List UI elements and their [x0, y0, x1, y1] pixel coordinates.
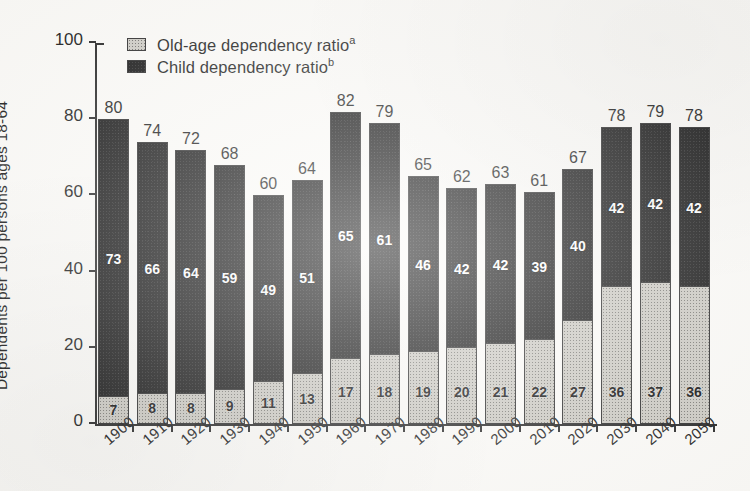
- old-age-segment-value-2050: 36: [686, 385, 702, 399]
- old-age-segment-value-1910: 8: [148, 401, 156, 415]
- bar-2010: 3922: [524, 192, 555, 424]
- legend-item-old-age: Old-age dependency ratioa: [127, 33, 356, 55]
- old-age-segment-2000: 21: [486, 343, 515, 423]
- legend-item-old-age-label: Old-age dependency ratioa: [157, 34, 356, 55]
- y-axis-top-cap: [95, 43, 104, 45]
- y-axis-tick: 60: [89, 193, 96, 195]
- bar-2050: 4236: [679, 127, 710, 424]
- child-segment-value-1900: 73: [106, 252, 122, 266]
- bar-total-label-1940: 60: [245, 176, 291, 192]
- bar-1900: 737: [98, 119, 129, 424]
- child-segment-value-2000: 42: [493, 258, 509, 272]
- child-segment-2000: 42: [486, 185, 515, 345]
- bar-1960: 6517: [330, 112, 361, 424]
- y-axis-tick-label: 40: [64, 259, 83, 279]
- child-segment-1950: 51: [293, 181, 322, 375]
- child-segment-1980: 46: [409, 177, 438, 352]
- old-age-segment-2020: 27: [563, 320, 592, 423]
- child-segment-value-1910: 66: [144, 262, 160, 276]
- child-segment-1930: 59: [215, 166, 244, 391]
- bar-2000: 4221: [485, 184, 516, 424]
- y-axis-tick-label: 20: [64, 335, 83, 355]
- child-segment-value-1960: 65: [338, 229, 354, 243]
- child-segment-value-1920: 64: [183, 266, 199, 280]
- black-swatch-icon: [127, 60, 146, 73]
- legend-item-child: Child dependency ratiob: [127, 55, 356, 77]
- child-segment-value-2050: 42: [686, 201, 702, 215]
- y-axis-title-text: Dependents per 100 persons ages 18-64: [0, 101, 37, 390]
- bar-1980: 4619: [408, 176, 439, 424]
- child-segment-2020: 40: [563, 170, 592, 322]
- footnote-marker-a: a: [349, 34, 355, 46]
- bar-total-label-2020: 67: [555, 150, 601, 166]
- child-segment-value-2040: 42: [648, 197, 664, 211]
- bar-total-label-1970: 79: [361, 104, 407, 120]
- gray-stipple-swatch-icon: [127, 38, 146, 51]
- old-age-segment-value-2010: 22: [531, 385, 547, 399]
- bar-total-label-2050: 78: [671, 108, 717, 124]
- child-segment-value-1940: 49: [261, 283, 277, 297]
- old-age-segment-value-1970: 18: [377, 385, 393, 399]
- bar-1950: 5113: [292, 180, 323, 424]
- y-axis-tick-label: 60: [64, 182, 83, 202]
- y-axis-tick: 0: [89, 422, 96, 424]
- bar-total-label-1950: 64: [284, 161, 330, 177]
- old-age-segment-1970: 18: [370, 354, 399, 423]
- bar-1930: 599: [214, 165, 245, 424]
- child-segment-value-2020: 40: [570, 239, 586, 253]
- old-age-segment-value-2000: 21: [493, 385, 509, 399]
- old-age-segment-2030: 36: [602, 286, 631, 423]
- old-age-segment-1990: 20: [447, 347, 476, 423]
- child-segment-2030: 42: [602, 128, 631, 288]
- old-age-segment-value-1950: 13: [299, 392, 315, 406]
- y-axis-tick-label: 80: [64, 106, 83, 126]
- bar-total-label-1900: 80: [91, 100, 137, 116]
- legend: Old-age dependency ratioa Child dependen…: [127, 33, 356, 77]
- y-axis-title: Dependents per 100 persons ages 18-64: [0, 0, 30, 491]
- old-age-segment-value-1920: 8: [187, 401, 195, 415]
- old-age-segment-value-2040: 37: [648, 385, 664, 399]
- child-segment-value-2010: 39: [531, 260, 547, 274]
- old-age-segment-value-1940: 11: [261, 396, 276, 410]
- old-age-segment-2040: 37: [641, 282, 670, 423]
- bar-1910: 668: [137, 142, 168, 424]
- child-segment-value-1990: 42: [454, 262, 470, 276]
- y-axis-tick: 40: [89, 270, 96, 272]
- footnote-marker-b: b: [328, 56, 334, 68]
- legend-item-child-label: Child dependency ratiob: [157, 56, 334, 77]
- y-axis-tick: 80: [89, 117, 96, 119]
- old-age-segment-value-1990: 20: [454, 385, 470, 399]
- bar-1920: 648: [175, 150, 206, 424]
- chart-figure: Dependents per 100 persons ages 18-64 02…: [0, 0, 750, 491]
- bar-2020: 4027: [562, 169, 593, 424]
- old-age-segment-2010: 22: [525, 339, 554, 423]
- bar-2040: 4237: [640, 123, 671, 424]
- child-segment-value-1980: 46: [415, 258, 431, 272]
- child-segment-1990: 42: [447, 189, 476, 349]
- old-age-segment-value-2030: 36: [609, 385, 625, 399]
- child-segment-2040: 42: [641, 124, 670, 284]
- bar-total-label-1930: 68: [207, 146, 253, 162]
- old-age-segment-value-1930: 9: [226, 399, 234, 413]
- bar-1990: 4220: [446, 188, 477, 424]
- child-segment-1970: 61: [370, 124, 399, 356]
- old-age-segment-value-1980: 19: [415, 385, 431, 399]
- bar-total-label-2010: 61: [516, 173, 562, 189]
- child-segment-2010: 39: [525, 193, 554, 342]
- child-segment-1920: 64: [176, 151, 205, 395]
- old-age-segment-value-1900: 7: [110, 403, 118, 417]
- child-segment-1940: 49: [254, 196, 283, 383]
- child-segment-value-2030: 42: [609, 201, 625, 215]
- plot-area: 020406080100 737806687464872599684911605…: [96, 43, 716, 424]
- old-age-segment-2050: 36: [680, 286, 709, 423]
- old-age-segment-value-2020: 27: [570, 385, 586, 399]
- child-segment-value-1930: 59: [222, 271, 238, 285]
- child-segment-1910: 66: [138, 143, 167, 394]
- child-segment-1900: 73: [99, 120, 128, 398]
- bar-total-label-1920: 72: [168, 131, 214, 147]
- y-axis-tick: 20: [89, 346, 96, 348]
- y-axis-tick-label: 100: [55, 30, 83, 50]
- old-age-segment-1980: 19: [409, 351, 438, 423]
- bar-2030: 4236: [601, 127, 632, 424]
- y-axis-tick-label: 0: [74, 411, 83, 431]
